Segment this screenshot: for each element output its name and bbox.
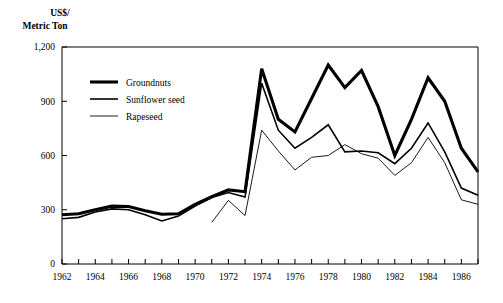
x-axis: 1962196419661968197019721974197619781980… <box>53 259 479 282</box>
plot-frame <box>62 47 478 264</box>
x-tick-label: 1984 <box>419 272 438 282</box>
chart-container: US$/ Metric Ton 03006009001,200 19621964… <box>0 0 503 303</box>
y-tick-label: 600 <box>41 151 56 161</box>
x-tick-label: 1962 <box>53 272 72 282</box>
legend-label-groundnuts: Groundnuts <box>126 78 171 88</box>
line-chart: US$/ Metric Ton 03006009001,200 19621964… <box>0 0 503 303</box>
x-tick-label: 1964 <box>86 272 105 282</box>
x-tick-label: 1972 <box>219 272 238 282</box>
data-series-group <box>62 65 478 222</box>
y-axis-title-line1: US$/ <box>50 8 70 18</box>
x-tick-label: 1986 <box>452 272 471 282</box>
x-tick-label: 1968 <box>152 272 171 282</box>
x-tick-label: 1974 <box>252 272 271 282</box>
x-tick-label: 1978 <box>319 272 338 282</box>
y-tick-label: 900 <box>41 97 56 107</box>
chart-legend: GroundnutsSunflower seedRapeseed <box>90 78 185 122</box>
legend-label-rapeseed: Rapeseed <box>126 112 163 122</box>
y-tick-label: 0 <box>50 259 55 269</box>
x-tick-label: 1966 <box>119 272 138 282</box>
y-tick-label: 300 <box>41 205 56 215</box>
x-tick-label: 1976 <box>285 272 304 282</box>
x-tick-label: 1970 <box>186 272 205 282</box>
x-tick-label: 1980 <box>352 272 371 282</box>
y-tick-label: 1,200 <box>34 42 56 52</box>
x-tick-label: 1982 <box>385 272 404 282</box>
y-axis-title-line2: Metric Ton <box>22 21 68 31</box>
series-line-sunflower-seed <box>62 83 478 221</box>
legend-label-sunflower-seed: Sunflower seed <box>126 95 185 105</box>
